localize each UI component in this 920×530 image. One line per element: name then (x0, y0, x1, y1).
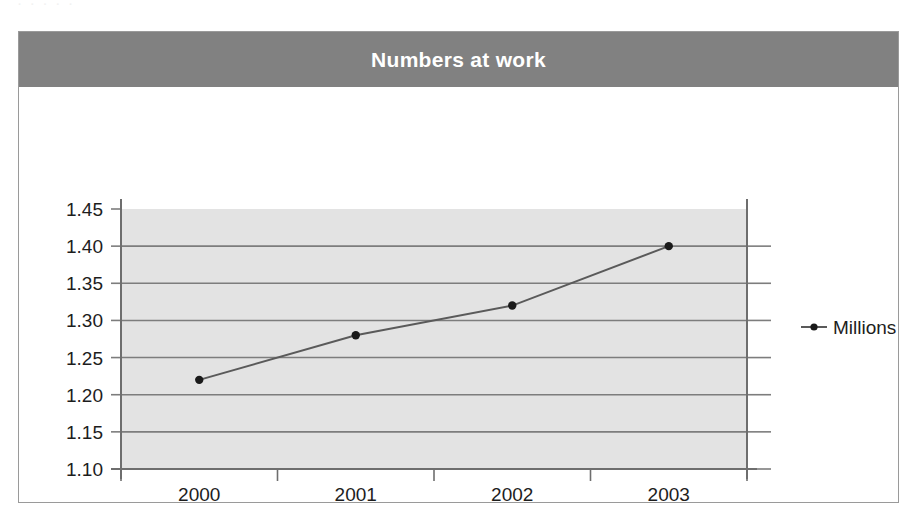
x-axis-tick-labels: 2000200120022003 (178, 484, 690, 503)
line-chart: 1.451.401.351.301.251.201.151.10 2000200… (19, 87, 898, 503)
y-tick-label: 1.35 (66, 273, 103, 294)
legend-marker-dot (810, 323, 817, 330)
chart-card: Numbers at work 1.451.401.351.301.251.20… (18, 31, 899, 503)
chart-legend: Millions (801, 317, 896, 338)
page-title: Numbers at work (371, 48, 546, 72)
chart-plot-region: 1.451.401.351.301.251.201.151.10 2000200… (19, 87, 898, 502)
y-tick-label: 1.25 (66, 348, 103, 369)
x-tick-label: 2000 (178, 484, 220, 503)
scan-top-text-fragment: · · · · · (18, 0, 318, 9)
data-point-marker (195, 376, 203, 384)
y-tick-label: 1.20 (66, 385, 103, 406)
x-tick-label: 2001 (335, 484, 377, 503)
chart-title-banner: Numbers at work (19, 32, 898, 87)
data-point-marker (665, 242, 673, 250)
legend-label: Millions (833, 317, 896, 338)
x-tick-label: 2002 (491, 484, 533, 503)
x-tick-marks-group (121, 469, 747, 481)
y-axis-tick-labels: 1.451.401.351.301.251.201.151.10 (66, 199, 103, 480)
y-tick-label: 1.15 (66, 422, 103, 443)
plot-background (121, 209, 747, 469)
x-tick-label: 2003 (648, 484, 690, 503)
y-tick-label: 1.40 (66, 236, 103, 257)
y-tick-label: 1.10 (66, 459, 103, 480)
data-point-marker (352, 331, 360, 339)
y-tick-label: 1.30 (66, 310, 103, 331)
data-point-marker (508, 301, 516, 309)
y-tick-label: 1.45 (66, 199, 103, 220)
